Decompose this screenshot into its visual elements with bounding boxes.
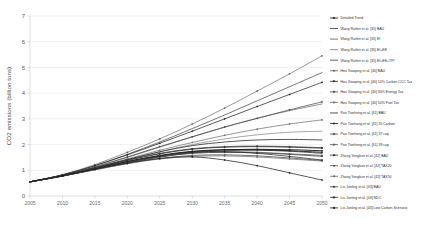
data-point	[191, 123, 193, 125]
legend-marker	[333, 186, 336, 189]
legend-marker	[333, 175, 336, 178]
legend-marker	[333, 207, 336, 210]
legend-label: Pan Tianhong et al. [41] 39 cap	[341, 143, 390, 147]
legend-label: Zhang Yongkun et al. [42] TAX50	[341, 175, 392, 179]
legend-item-16[interactable]: Liu Junling et al. [43] BAU	[330, 185, 381, 189]
series-15	[30, 155, 323, 182]
legend-label: Wang Ruifen et al. [35] EI+EE	[341, 48, 388, 52]
x-tick-label: 2020	[122, 200, 133, 206]
legend-item-8[interactable]: Hou Xiaoping et al. [40] 50% Fuel Tax	[330, 101, 399, 105]
data-point	[289, 93, 291, 95]
legend-item-1[interactable]: Wang Ruifen et al. [35] BAU	[330, 27, 385, 31]
data-point	[321, 101, 323, 103]
data-series-group	[30, 55, 323, 182]
data-point	[126, 151, 128, 153]
y-tick-label: 0	[22, 193, 26, 199]
data-point	[321, 119, 323, 121]
y-tick-labels: 01234567	[22, 13, 26, 199]
y-tick-label: 1	[22, 167, 26, 173]
legend-label: Hou Xiaoping et al. [40] 30% Energy Tax	[341, 90, 404, 94]
legend-item-3[interactable]: Wang Ruifen et al. [35] EI+EE	[330, 48, 388, 52]
legend-label: Pan Tianhong et al. [41] 35 Carbon	[341, 122, 395, 126]
axes	[28, 16, 323, 199]
legend-label: Wang Ruifen et al. [35] EI	[341, 37, 381, 41]
series-line	[30, 102, 322, 182]
x-tick-label: 2045	[284, 200, 295, 206]
legend-label: Wang Ruifen et al. [35] BAU	[341, 27, 385, 31]
legend-label: Liu Junling et al. [43] BAU	[341, 185, 382, 189]
legend-item-2[interactable]: Wang Ruifen et al. [35] EI	[330, 37, 380, 41]
series-18	[30, 156, 323, 182]
data-point	[289, 172, 291, 174]
legend-marker	[333, 17, 336, 20]
x-tick-labels: 2005201020152020202520302035204020452050	[24, 200, 327, 206]
legend-item-11[interactable]: Pan Tianhong et al. [41] 37 cap	[330, 132, 389, 136]
data-point	[191, 136, 193, 138]
series-line	[30, 157, 322, 182]
legend-label: Pan Tianhong et al. [41] BAU	[341, 111, 387, 115]
series-17	[30, 151, 323, 182]
data-point	[159, 149, 161, 151]
legend-item-12[interactable]: Pan Tianhong et al. [41] 39 cap	[330, 143, 389, 147]
y-tick-label: 3	[22, 116, 26, 122]
legend-item-0[interactable]: Detailed Trend	[330, 16, 363, 20]
series-line	[30, 139, 322, 181]
x-tick-label: 2035	[219, 200, 230, 206]
data-point	[224, 134, 226, 136]
y-tick-label: 4	[22, 90, 26, 96]
legend-label: Liu Junling et al. [43] Low Carbon Scena…	[341, 206, 408, 210]
chart-legend: Detailed TrendWang Ruifen et al. [35] BA…	[330, 16, 412, 210]
y-tick-label: 7	[22, 13, 26, 19]
data-point	[224, 107, 226, 109]
data-point	[256, 165, 258, 167]
legend-marker	[333, 196, 336, 199]
x-tick-label: 2015	[89, 200, 100, 206]
legend-item-7[interactable]: Hou Xiaoping et al. [40] 30% Energy Tax	[330, 90, 404, 94]
legend-marker	[333, 143, 336, 146]
legend-item-10[interactable]: Pan Tianhong et al. [41] 35 Carbon	[330, 122, 395, 126]
legend-item-14[interactable]: Zhang Yongkun et al. [42] TAX20	[330, 164, 392, 168]
legend-marker	[333, 70, 335, 72]
legend-item-17[interactable]: Liu Junling et al. [43] NDC	[330, 196, 382, 200]
legend-label: Hou Xiaoping et al. [40] BAU	[341, 69, 386, 73]
x-tick-label: 2030	[187, 200, 198, 206]
data-point	[256, 105, 258, 107]
y-tick-label: 5	[22, 65, 26, 71]
legend-marker	[333, 91, 336, 94]
data-point	[191, 130, 193, 132]
series-line	[30, 155, 322, 182]
legend-item-4[interactable]: Wang Ruifen et al. [35] EI+EE+TPI	[330, 59, 394, 63]
x-tick-label: 2010	[57, 200, 68, 206]
legend-marker	[333, 164, 336, 167]
legend-item-18[interactable]: Liu Junling et al. [43] Low Carbon Scena…	[330, 206, 407, 210]
legend-item-5[interactable]: Hou Xiaoping et al. [40] BAU	[330, 69, 386, 73]
data-point	[321, 179, 323, 181]
legend-marker	[333, 154, 336, 157]
y-axis-label: CO2 emissions (billion tons)	[5, 67, 12, 145]
legend-item-9[interactable]: Pan Tianhong et al. [41] BAU	[330, 111, 386, 115]
data-point	[224, 126, 226, 128]
legend-marker	[333, 80, 336, 83]
series-line	[30, 82, 322, 182]
series-line	[30, 73, 322, 182]
legend-item-13[interactable]: Zhang Yongkun et al. [42] BAU	[330, 154, 389, 158]
legend-label: Wang Ruifen et al. [35] EI+EE+TPI	[341, 59, 395, 63]
legend-label: Zhang Yongkun et al. [42] TAX20	[341, 164, 392, 168]
series-9	[30, 139, 322, 181]
data-point	[191, 141, 193, 143]
data-point	[289, 123, 291, 125]
legend-label: Zhang Yongkun et al. [42] BAU	[341, 154, 389, 158]
legend-item-15[interactable]: Zhang Yongkun et al. [42] TAX50	[330, 175, 392, 179]
legend-label: Detailed Trend	[341, 16, 364, 20]
data-point	[289, 73, 291, 75]
y-tick-label: 6	[22, 39, 26, 45]
y-axis-title: CO2 emissions (billion tons)	[5, 67, 12, 145]
series-11	[30, 151, 323, 182]
data-point	[256, 128, 258, 130]
data-point	[256, 90, 258, 92]
legend-label: Hou Xiaoping et al. [40] 10% Carbon CCC …	[341, 80, 413, 84]
data-point	[321, 81, 323, 83]
x-tick-label: 2050	[316, 200, 327, 206]
legend-item-6[interactable]: Hou Xiaoping et al. [40] 10% Carbon CCC …	[330, 80, 412, 84]
series-5	[30, 55, 323, 182]
